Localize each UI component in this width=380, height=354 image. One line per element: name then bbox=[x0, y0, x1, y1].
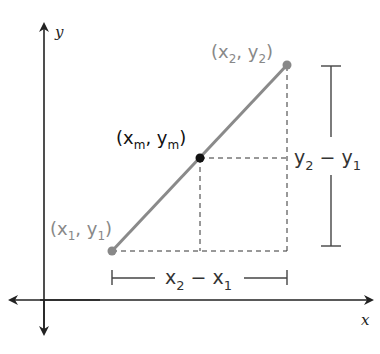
dx-label: x2 − x1 bbox=[165, 266, 232, 293]
x-axis-label: x bbox=[361, 311, 370, 329]
midpoint-diagram: y x (x2, y2) (xm, ym) (x1, y1) x2 − x1 y… bbox=[0, 0, 380, 354]
midpoint-label: (xm, ym) bbox=[116, 127, 186, 152]
y-axis-label: y bbox=[54, 23, 64, 41]
dy-label: y2 − y1 bbox=[294, 146, 361, 173]
midpoint bbox=[196, 154, 205, 163]
endpoint-2-label: (x2, y2) bbox=[211, 41, 273, 66]
endpoint-1 bbox=[108, 247, 117, 256]
endpoint-1-label: (x1, y1) bbox=[50, 218, 112, 243]
endpoint-2 bbox=[283, 61, 292, 70]
